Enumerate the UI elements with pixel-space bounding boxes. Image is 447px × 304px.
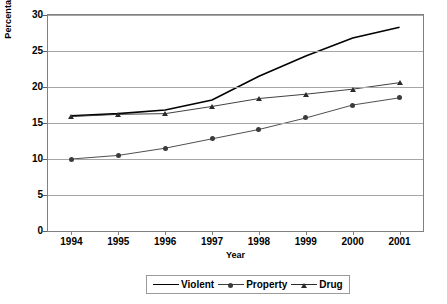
- y-axis-tick-group: 051015202530: [18, 14, 43, 232]
- x-axis-tick-mark: [353, 231, 354, 235]
- data-point-triangle: [68, 114, 74, 119]
- x-axis-tick-label: 2001: [378, 236, 422, 248]
- y-axis-tick-label: 5: [21, 190, 43, 200]
- legend-label: Drug: [319, 280, 342, 290]
- legend-item-drug[interactable]: Drug: [291, 280, 342, 290]
- x-axis-tick-mark: [306, 231, 307, 235]
- legend-item-violent[interactable]: Violent: [153, 280, 214, 290]
- gridline: [48, 87, 423, 88]
- y-axis-tick-label: 25: [21, 46, 43, 56]
- gridline: [48, 123, 423, 124]
- legend-marker-triangle-icon: [301, 283, 307, 288]
- y-axis-tick-label: 30: [21, 10, 43, 20]
- data-point-triangle: [397, 80, 403, 85]
- x-axis-tick-label: 1997: [190, 236, 234, 248]
- x-axis-tick-mark: [165, 231, 166, 235]
- x-axis-title: Year: [47, 250, 424, 260]
- y-axis-tick-label: 20: [21, 82, 43, 92]
- data-point-triangle: [209, 104, 215, 109]
- line-chart-figure: Percentage of All Arrests 051015202530 1…: [0, 0, 447, 304]
- data-point-triangle: [303, 92, 309, 97]
- y-axis-title: Percentage of All Arrests: [0, 0, 16, 64]
- legend-label: Property: [246, 280, 287, 290]
- legend-swatch-property-icon: [218, 280, 244, 290]
- data-point-circle: [69, 157, 74, 162]
- data-point-circle: [116, 153, 121, 158]
- x-axis-tick-label: 1998: [237, 236, 281, 248]
- legend-marker-circle-icon: [228, 283, 233, 288]
- data-point-circle: [163, 146, 168, 151]
- x-axis-tick-label: 1999: [284, 236, 328, 248]
- legend-swatch-drug-icon: [291, 280, 317, 290]
- legend-label: Violent: [181, 280, 214, 290]
- gridline: [48, 195, 423, 196]
- y-axis-tick-label: 10: [21, 154, 43, 164]
- x-axis-tick-mark: [118, 231, 119, 235]
- gridline: [48, 15, 423, 16]
- legend-swatch-violent-icon: [153, 280, 179, 290]
- y-axis-tick-label: 15: [21, 118, 43, 128]
- data-point-circle: [210, 136, 215, 141]
- x-axis-tick-mark: [212, 231, 213, 235]
- data-point-triangle: [162, 111, 168, 116]
- x-axis-tick-label: 2000: [331, 236, 375, 248]
- data-point-triangle: [350, 87, 356, 92]
- gridline: [48, 51, 423, 52]
- data-point-triangle: [115, 112, 121, 117]
- x-axis-tick-label: 1994: [49, 236, 93, 248]
- x-axis-tick-mark: [71, 231, 72, 235]
- x-axis-tick-label: 1995: [96, 236, 140, 248]
- x-axis-tick-mark: [259, 231, 260, 235]
- chart-legend: ViolentPropertyDrug: [146, 275, 350, 294]
- gridline: [48, 159, 423, 160]
- x-axis-tick-mark: [400, 231, 401, 235]
- legend-line: [153, 284, 179, 286]
- x-axis-tick-label: 1996: [143, 236, 187, 248]
- data-point-circle: [350, 103, 355, 108]
- data-point-triangle: [256, 96, 262, 101]
- y-axis-tick-label: 0: [21, 226, 43, 236]
- legend-item-property[interactable]: Property: [218, 280, 287, 290]
- plot-area: [47, 14, 424, 232]
